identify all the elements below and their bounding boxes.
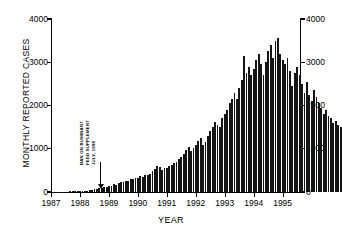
y-tick-label-right: 3000 [306, 58, 325, 67]
x-tick [80, 193, 81, 197]
x-tick-label: 1995 [263, 199, 303, 208]
y-tick-label-left: 3000 [29, 58, 48, 67]
y-tick-right [300, 62, 305, 63]
x-tick [109, 193, 110, 197]
feed-ban-annotation: BAN ON RUMINANTFEED SUPPLEMENTJULY, 1988 [84, 103, 146, 165]
annotation-line: BAN ON RUMINANT [79, 121, 84, 165]
x-tick [167, 193, 168, 197]
y-tick-label-left: 4000 [29, 15, 48, 24]
y-tick-label-left: 1000 [29, 144, 48, 153]
x-tick [51, 193, 52, 197]
x-axis-baseline [51, 192, 301, 193]
y-tick-label-left: 0 [43, 188, 48, 197]
annotation-line: JULY, 1988 [91, 141, 96, 165]
feed-ban-arrow-shaft [100, 162, 101, 186]
x-axis-label: YEAR [0, 215, 342, 225]
x-tick [196, 193, 197, 197]
x-tick [283, 193, 284, 197]
y-tick-label-left: 2000 [29, 101, 48, 110]
annotation-line: FEED SUPPLEMENT [85, 120, 90, 165]
y-tick-right [300, 18, 305, 19]
bse-epidemic-chart: MONTHLY REPORTED CASES YEAR 010002000300… [0, 0, 342, 236]
y-tick-label-right: 4000 [306, 15, 325, 24]
x-tick [254, 193, 255, 197]
x-tick [225, 193, 226, 197]
x-tick [138, 193, 139, 197]
feed-ban-arrow-head [98, 184, 104, 189]
